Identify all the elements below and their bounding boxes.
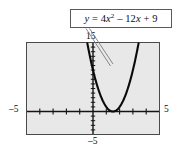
- figure-container: y = 4x2 – 12x + 9 15 –5 5 –5: [0, 0, 182, 167]
- plot-svg: [0, 0, 182, 167]
